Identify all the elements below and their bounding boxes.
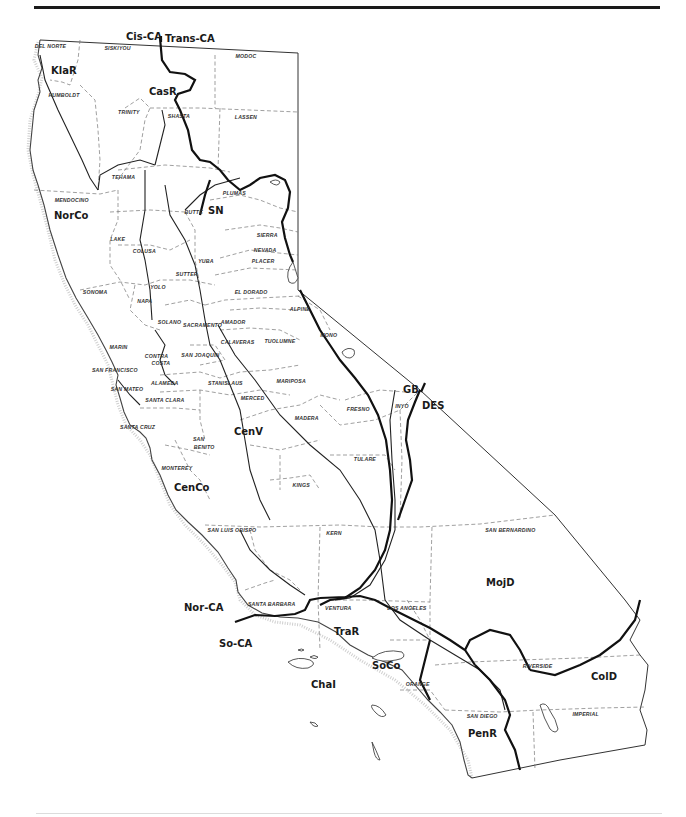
region-label-soco: SoCo — [372, 660, 400, 671]
county-label: SAN BERNARDINO — [485, 527, 535, 533]
county-label: BENITO — [194, 444, 215, 450]
lake-tahoe — [288, 262, 298, 283]
county-label: MODOC — [236, 53, 257, 59]
region-label-klar: KlaR — [51, 65, 77, 76]
county-label: ALPINE — [290, 306, 310, 312]
bottom-rule — [36, 813, 662, 814]
county-label: TRINITY — [118, 109, 140, 115]
county-label: SANTA BARBARA — [248, 601, 296, 607]
county-label: LOS ANGELES — [387, 605, 426, 611]
region-boundaries — [40, 55, 505, 710]
county-label: FRESNO — [347, 406, 370, 412]
region-label-trar: TraR — [334, 626, 359, 637]
county-label: ALAMEDA — [151, 380, 178, 386]
county-label: KERN — [326, 530, 342, 536]
province-label-trans-ca: Trans-CA — [165, 33, 215, 44]
county-label: TULARE — [354, 456, 376, 462]
region-label-mojd: MojD — [486, 577, 515, 588]
county-label: NEVADA — [254, 247, 277, 253]
county-label: SOLANO — [158, 319, 181, 325]
channel-island — [310, 656, 318, 659]
county-label: SAN MATEO — [111, 386, 144, 392]
county-label: BUTTE — [185, 209, 203, 215]
county-label: ORANGE — [406, 681, 430, 687]
region-label-so-ca: So-CA — [219, 638, 252, 649]
county-label: SAN FRANCISCO — [92, 367, 138, 373]
state-east-border — [298, 53, 648, 778]
county-label: NAPA — [137, 298, 152, 304]
county-label: SUTTER — [176, 271, 198, 277]
county-label: MADERA — [295, 415, 319, 421]
county-label: SANTA CRUZ — [120, 424, 155, 430]
county-label: LASSEN — [235, 114, 257, 120]
county-label: TUOLUMNE — [264, 338, 295, 344]
region-label-norco: NorCo — [54, 210, 88, 221]
eagle-lake — [270, 180, 280, 185]
region-label-chai: ChaI — [311, 679, 336, 690]
channel-island — [288, 658, 314, 668]
channel-island — [310, 722, 318, 727]
coast-stipple — [28, 42, 472, 778]
county-label: SACRAMENTO — [183, 322, 222, 328]
region-label-casr: CasR — [149, 86, 177, 97]
county-label: SISKIYOU — [104, 45, 130, 51]
county-label: SAN JOAQUIN — [181, 352, 219, 358]
region-label-penr: PenR — [468, 728, 497, 739]
county-label: MARIPOSA — [276, 378, 306, 384]
county-label: STANISLAUS — [208, 380, 243, 386]
county-label: SAN — [193, 436, 205, 442]
county-label: YUBA — [198, 258, 214, 264]
region-label-des: DES — [422, 400, 444, 411]
county-label: MONTEREY — [161, 465, 192, 471]
channel-island — [372, 705, 387, 717]
county-label: MARIN — [110, 344, 128, 350]
county-label: CALAVERAS — [221, 339, 255, 345]
california-map — [0, 0, 686, 817]
county-label: KINGS — [293, 482, 310, 488]
region-label-cenv: CenV — [234, 426, 263, 437]
county-label: PLUMAS — [223, 190, 246, 196]
county-label: CONTRA — [145, 353, 168, 359]
county-label: SANTA CLARA — [145, 397, 184, 403]
county-label: SAN DIEGO — [467, 713, 498, 719]
gb-des-tick — [421, 383, 425, 392]
channel-island — [298, 649, 304, 651]
county-label: SAN LUIS OBISPO — [208, 527, 257, 533]
mono-lake — [342, 348, 355, 358]
region-label-sn: SN — [208, 205, 224, 216]
county-label: PLACER — [252, 258, 275, 264]
salton-sea — [540, 704, 558, 732]
county-label: MERCED — [241, 395, 265, 401]
county-label: DEL NORTE — [35, 43, 67, 49]
county-label: COSTA — [152, 360, 171, 366]
county-label: MENDOCINO — [55, 197, 89, 203]
county-label: HUMBOLDT — [48, 92, 79, 98]
county-boundaries — [34, 40, 645, 770]
county-label: LAKE — [110, 236, 125, 242]
county-label: IMPERIAL — [572, 711, 598, 717]
county-label: SONOMA — [83, 289, 108, 295]
county-label: RIVERSIDE — [523, 663, 553, 669]
county-label: COLUSA — [133, 248, 156, 254]
region-label-cenco: CenCo — [174, 482, 209, 493]
county-label: SHASTA — [168, 113, 190, 119]
county-label: SIERRA — [257, 232, 278, 238]
channel-island — [372, 742, 380, 760]
state-coastline — [30, 40, 472, 778]
province-label-cis-ca: Cis-CA — [126, 31, 162, 42]
county-label: YOLO — [150, 284, 166, 290]
county-label: MONO — [320, 332, 337, 338]
county-label: INYO — [395, 403, 408, 409]
region-label-gb: GB — [403, 384, 419, 395]
region-label-cold: ColD — [591, 671, 617, 682]
county-label: EL DORADO — [235, 289, 268, 295]
county-label: TEHAMA — [112, 174, 135, 180]
county-label: VENTURA — [325, 605, 351, 611]
county-label: AMADOR — [221, 319, 246, 325]
region-label-nor-ca: Nor-CA — [184, 602, 223, 613]
